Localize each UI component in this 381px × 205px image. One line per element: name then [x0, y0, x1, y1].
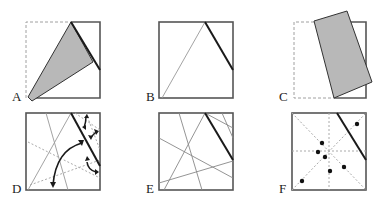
panel-b: B [146, 22, 233, 104]
square-outline [159, 22, 233, 98]
gray-flap [28, 22, 93, 101]
dot [342, 165, 346, 169]
panel-f: F [279, 113, 366, 196]
panel-label-a: A [12, 89, 22, 104]
square-outline [26, 113, 100, 190]
arrowhead-icon [50, 182, 56, 188]
gray-flap [314, 11, 372, 98]
dot [320, 141, 324, 145]
panel-label-c: C [279, 89, 288, 104]
panel-label-e: E [146, 181, 154, 196]
panel-label-f: F [279, 181, 286, 196]
panel-e: E [146, 113, 233, 196]
panel-label-d: D [12, 181, 21, 196]
dot [355, 122, 359, 126]
dot [323, 155, 327, 159]
thin-line [222, 113, 233, 138]
thick-crease [205, 22, 233, 70]
arrowhead-icon [78, 140, 84, 146]
dot [328, 169, 332, 173]
panel-a: A [12, 22, 100, 104]
panel-d: D [12, 113, 100, 196]
arrowhead-icon [95, 169, 99, 175]
panel-c: C [279, 11, 372, 104]
origami-fold-diagram: A B C D [0, 0, 381, 205]
thin-diagonal [162, 22, 205, 98]
dot [316, 150, 320, 154]
panel-label-b: B [146, 89, 155, 104]
curved-arrow-icon [53, 143, 82, 185]
arrowhead-icon [85, 156, 90, 161]
thick-crease [337, 113, 366, 160]
dot [300, 179, 304, 183]
